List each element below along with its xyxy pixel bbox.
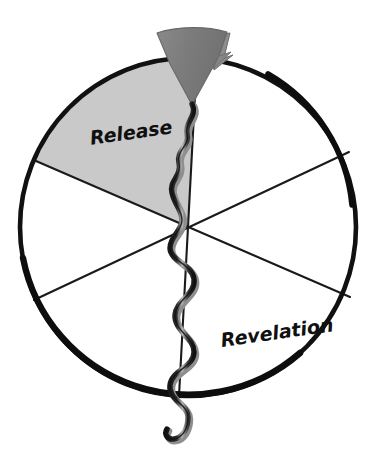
diagram-canvas: Release Revelation bbox=[0, 0, 382, 469]
wheel-diagram-svg: Release Revelation bbox=[0, 0, 382, 469]
